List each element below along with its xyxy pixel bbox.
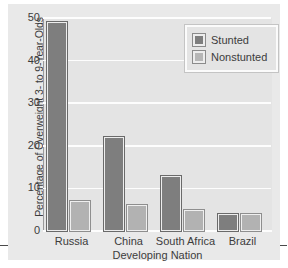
- y-axis-tick-label: 40: [14, 55, 40, 66]
- figure-page: Percentage of Overweight 3- to 9-Year-Ol…: [0, 0, 287, 268]
- x-axis-tick-label: Brazil: [198, 235, 288, 247]
- y-axis-tick-label: 20: [14, 140, 40, 151]
- y-axis-tick-label: 50: [14, 12, 40, 23]
- bar-stunted-china: [104, 137, 124, 231]
- legend-item-nonstunted: Nonstunted: [193, 48, 267, 65]
- bar-nonstunted-south-africa: [184, 210, 204, 231]
- gridline: [43, 17, 271, 19]
- bar-nonstunted-brazil: [241, 214, 261, 231]
- legend-item-stunted: Stunted: [193, 31, 267, 48]
- bar-nonstunted-russia: [70, 201, 90, 231]
- x-axis-title: Developing Nation: [43, 249, 272, 261]
- legend-swatch-icon: [193, 34, 205, 46]
- legend-label: Nonstunted: [211, 51, 267, 63]
- bar-nonstunted-china: [127, 205, 147, 231]
- y-axis-tick-label: 10: [14, 182, 40, 193]
- bar-stunted-south-africa: [161, 176, 181, 231]
- gridline: [43, 188, 271, 190]
- gridline: [43, 102, 271, 104]
- legend-swatch-icon: [193, 51, 205, 63]
- bar-chart-figure: Percentage of Overweight 3- to 9-Year-Ol…: [8, 4, 280, 260]
- legend-label: Stunted: [211, 34, 249, 46]
- bar-stunted-brazil: [218, 214, 238, 231]
- chart-legend: StuntedNonstunted: [185, 25, 278, 72]
- y-axis-tick-label: 30: [14, 97, 40, 108]
- gridline: [43, 145, 271, 147]
- bar-stunted-russia: [47, 22, 67, 231]
